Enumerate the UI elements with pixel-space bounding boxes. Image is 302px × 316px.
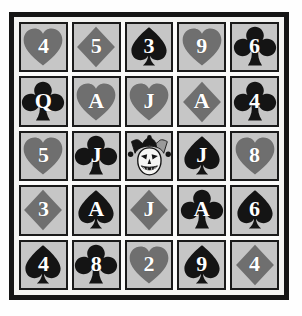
card-rank-label: 5 <box>38 144 49 166</box>
card-cell-4-hearts[interactable]: 4 <box>19 22 68 72</box>
card-cell-6-clubs[interactable]: 6 <box>230 22 279 72</box>
heart-suit-icon: A <box>74 78 119 124</box>
card-cell-a-clubs[interactable]: A <box>177 185 226 235</box>
card-cell-4-diamonds[interactable]: 4 <box>230 240 279 290</box>
card-rank-label: 6 <box>249 198 260 220</box>
card-rank-label: 9 <box>196 35 207 57</box>
card-cell-6-spades[interactable]: 6 <box>230 185 279 235</box>
card-rank-label: A <box>194 90 210 112</box>
card-rank-label: A <box>194 198 210 220</box>
joker-icon <box>127 133 172 179</box>
club-suit-icon: 6 <box>232 24 277 70</box>
card-rank-label: 6 <box>249 35 260 57</box>
card-rank-label: 5 <box>91 35 102 57</box>
picture-frame: 45396QAJA45JJ83AJA648294 <box>9 12 289 300</box>
spade-suit-icon: 6 <box>232 187 277 233</box>
card-cell-j-spades[interactable]: J <box>177 131 226 181</box>
diamond-suit-icon: A <box>179 78 224 124</box>
card-cell-5-diamonds[interactable]: 5 <box>72 22 121 72</box>
spade-suit-icon: 3 <box>127 24 172 70</box>
spade-suit-icon: A <box>74 187 119 233</box>
card-rank-label: A <box>88 90 104 112</box>
card-grid: 45396QAJA45JJ83AJA648294 <box>19 22 279 290</box>
club-suit-icon: J <box>74 133 119 179</box>
card-rank-label: 2 <box>143 253 154 275</box>
card-rank-label: 4 <box>38 35 49 57</box>
card-rank-label: 9 <box>196 253 207 275</box>
card-cell-j-clubs[interactable]: J <box>72 131 121 181</box>
card-rank-label: J <box>91 144 102 166</box>
club-suit-icon: A <box>179 187 224 233</box>
card-rank-label: 8 <box>91 253 102 275</box>
card-rank-label: 3 <box>38 198 49 220</box>
card-cell-j-diamonds[interactable]: J <box>125 185 174 235</box>
heart-suit-icon: 5 <box>21 133 66 179</box>
card-cell-4-spades[interactable]: 4 <box>19 240 68 290</box>
club-suit-icon: 8 <box>74 242 119 288</box>
card-cell-4-clubs[interactable]: 4 <box>230 76 279 126</box>
card-rank-label: J <box>196 144 207 166</box>
card-cell-5-hearts[interactable]: 5 <box>19 131 68 181</box>
spade-suit-icon: 9 <box>179 242 224 288</box>
diamond-suit-icon: 3 <box>21 187 66 233</box>
card-cell-j-hearts[interactable]: J <box>125 76 174 126</box>
card-rank-label: 4 <box>38 253 49 275</box>
card-cell-9-spades[interactable]: 9 <box>177 240 226 290</box>
card-cell-q-clubs[interactable]: Q <box>19 76 68 126</box>
spade-suit-icon: J <box>179 133 224 179</box>
diamond-suit-icon: J <box>127 187 172 233</box>
card-cell-3-diamonds[interactable]: 3 <box>19 185 68 235</box>
card-cell-9-hearts[interactable]: 9 <box>177 22 226 72</box>
spade-suit-icon: 4 <box>21 242 66 288</box>
card-rank-label: 3 <box>143 35 154 57</box>
club-suit-icon: Q <box>21 78 66 124</box>
card-rank-label: 4 <box>249 90 260 112</box>
heart-suit-icon: 8 <box>232 133 277 179</box>
card-cell-8-hearts[interactable]: 8 <box>230 131 279 181</box>
card-cell-2-hearts[interactable]: 2 <box>125 240 174 290</box>
card-rank-label: J <box>143 90 154 112</box>
card-rank-label: Q <box>35 90 52 112</box>
heart-suit-icon: 2 <box>127 242 172 288</box>
diamond-suit-icon: 5 <box>74 24 119 70</box>
diamond-suit-icon: 4 <box>232 242 277 288</box>
heart-suit-icon: 4 <box>21 24 66 70</box>
card-cell-3-spades[interactable]: 3 <box>125 22 174 72</box>
card-cell-a-diamonds[interactable]: A <box>177 76 226 126</box>
card-rank-label: J <box>143 198 154 220</box>
card-cell-a-spades[interactable]: A <box>72 185 121 235</box>
card-cell-a-hearts[interactable]: A <box>72 76 121 126</box>
card-rank-label: 4 <box>249 253 260 275</box>
card-cell-joker[interactable] <box>125 131 174 181</box>
card-grid-artwork: 45396QAJA45JJ83AJA648294 <box>0 0 302 316</box>
heart-suit-icon: 9 <box>179 24 224 70</box>
club-suit-icon: 4 <box>232 78 277 124</box>
card-rank-label: A <box>88 198 104 220</box>
card-cell-8-clubs[interactable]: 8 <box>72 240 121 290</box>
heart-suit-icon: J <box>127 78 172 124</box>
card-rank-label: 8 <box>249 144 260 166</box>
